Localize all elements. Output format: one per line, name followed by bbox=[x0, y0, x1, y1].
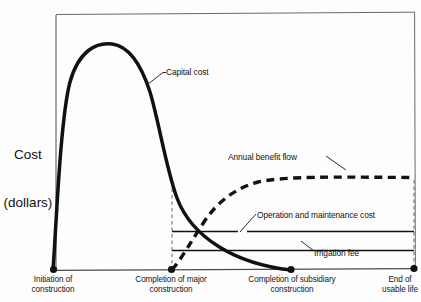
chart-frame-top bbox=[56, 12, 415, 14]
x-tick-label-completion-major-construction: Completion of major construction bbox=[120, 275, 222, 294]
x-tick-label-completion-subsidiary-construction: Completion of subsidiary construction bbox=[236, 275, 348, 294]
capital-cost-leader-line bbox=[148, 73, 166, 85]
annual-benefit-flow-leader-line bbox=[326, 156, 346, 170]
marker-completion-major-construction bbox=[168, 266, 175, 273]
y-axis-label-line2: (dollars) bbox=[2, 195, 54, 211]
marker-initiation-of-construction bbox=[50, 266, 57, 273]
chart-frame-right bbox=[415, 12, 416, 270]
annotation-capital-cost: Capital cost bbox=[166, 67, 209, 77]
cost-benefit-lifecycle-chart: Cost (dollars) Initiation of constructio… bbox=[0, 0, 421, 302]
x-axis-line bbox=[53, 269, 416, 271]
annual-benefit-flow-curve bbox=[172, 177, 414, 270]
operation-maintenance-cost-leader-line bbox=[240, 214, 256, 232]
annotation-operation-and-maintenance-cost: Operation and maintenance cost bbox=[257, 210, 375, 220]
annotation-annual-benefit-flow: Annual benefit flow bbox=[228, 152, 297, 162]
marker-end-of-usable-life bbox=[410, 265, 417, 272]
x-tick-label-initiation-of-construction: Initiation of construction bbox=[16, 275, 90, 294]
y-axis-label: Cost (dollars) bbox=[2, 115, 54, 243]
x-tick-label-end-of-usable-life: End of usable life bbox=[378, 275, 421, 294]
irrigation-fee-leader-line bbox=[301, 241, 314, 251]
annotation-irrigation-fee: Irrigation fee bbox=[314, 248, 359, 258]
marker-completion-subsidiary-construction bbox=[287, 266, 294, 273]
y-axis-label-line1: Cost bbox=[2, 147, 54, 163]
